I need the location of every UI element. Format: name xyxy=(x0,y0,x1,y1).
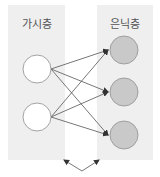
hidden-node-2 xyxy=(110,78,138,106)
bottom-double-arrow xyxy=(64,160,99,171)
edge-v2-h2 xyxy=(51,92,108,117)
hidden-node-3 xyxy=(110,121,138,149)
edge-v1-h3 xyxy=(51,69,108,135)
hidden-node-1 xyxy=(110,36,138,64)
hidden-nodes xyxy=(110,36,138,149)
network-diagram xyxy=(0,0,160,177)
visible-node-1 xyxy=(23,55,51,83)
edge-v2-h3 xyxy=(51,117,108,135)
visible-node-2 xyxy=(23,103,51,131)
edge-v1-h2 xyxy=(51,69,108,92)
arrow-right-up xyxy=(82,160,99,171)
arrow-left-up xyxy=(64,160,82,171)
connections xyxy=(51,50,108,135)
edge-v2-h1 xyxy=(51,50,108,117)
visible-nodes xyxy=(23,55,51,131)
